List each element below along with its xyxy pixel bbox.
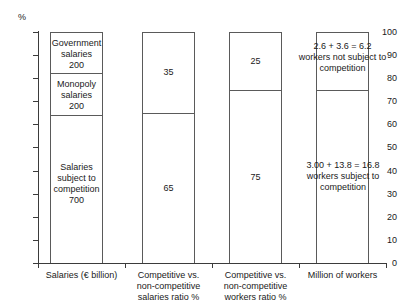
bar1-divider-monopoly [50,115,103,116]
y-tick-label-80: 80 [366,73,397,83]
cat2-line1: Competitive vs. [138,270,200,280]
cat4-line1: Million of workers [308,270,378,280]
y-tick-70 [33,101,38,102]
bar3-segment-bottom-label: 75 [229,172,282,183]
bar4-seg1-line2: workers not subject to [299,52,387,62]
bar4-seg1-value: 2.6 + 3.6 = 6.2 [313,41,371,51]
cat1-line1: Salaries (€ billion) [46,270,118,280]
cat2-line3: salaries ratio % [138,292,200,302]
y-tick-label-10: 10 [366,235,397,245]
x-tick-1 [125,263,126,268]
x-tick-2 [212,263,213,268]
x-category-label-workers-ratio: Competitive vs. non-competitive workers … [207,270,304,303]
bar4-segment-not-subject-label: 2.6 + 3.6 = 6.2 workers not subject to c… [290,41,395,74]
bar1-seg2-value: 200 [69,101,84,111]
bar1-segment-competition-label: Salaries subject to competition 700 [35,162,118,206]
cat3-line2: non-competitive [224,281,288,291]
bar1-segment-monopoly-label: Monopoly salaries 200 [40,79,113,112]
x-category-label-salaries-ratio: Competitive vs. non-competitive salaries… [120,270,217,303]
bar1-segment-government-label: Government salaries 200 [38,38,115,71]
bar1-divider-government [50,73,103,74]
x-category-label-million-workers: Million of workers [294,270,391,281]
y-tick-label-50: 50 [366,142,397,152]
y-tick-label-60: 60 [366,119,397,129]
x-tick-3 [299,263,300,268]
bar1-seg2-line1: Monopoly [57,79,96,89]
bar4-seg2-line3: competition [320,182,366,192]
bar1-seg1-value: 200 [69,60,84,70]
bar2-segment-bottom-label: 65 [142,183,195,194]
y-tick-label-0: 0 [366,258,397,268]
bar4-seg1-line3: competition [319,63,365,73]
y-tick-100 [33,32,38,33]
x-tick-end [386,263,387,268]
x-tick-start [38,263,39,268]
y-tick-50 [33,147,38,148]
bar2-segment-top-label: 35 [142,67,195,78]
bar2-divider [142,113,195,114]
cat3-line1: Competitive vs. [225,270,287,280]
x-category-label-salaries: Salaries (€ billion) [33,270,130,281]
bar1-seg3-line3: competition [53,184,99,194]
bar1-seg1-line1: Government [52,38,102,48]
bar1-seg2-line2: salaries [61,90,92,100]
y-tick-label-100: 100 [366,27,397,37]
bar3-divider [229,90,282,91]
y-tick-20 [33,217,38,218]
cat3-line3: workers ratio % [224,292,286,302]
bar1-seg1-line2: salaries [61,49,92,59]
bar3-segment-top-label: 25 [229,56,282,67]
y-tick-label-70: 70 [366,96,397,106]
bar4-seg2-value: 3.00 + 13.8 = 16.8 [306,160,379,170]
cat2-line2: non-competitive [137,281,201,291]
y-tick-60 [33,124,38,125]
y-tick-10 [33,240,38,241]
bar4-divider [316,90,369,91]
bar1-seg3-value: 700 [69,195,84,205]
bar4-segment-subject-label: 3.00 + 13.8 = 16.8 workers subject to co… [288,160,398,193]
bar1-seg3-line2: subject to [57,173,96,183]
bar4-seg2-line2: workers subject to [307,171,380,181]
bar1-seg3-line1: Salaries [60,162,93,172]
y-tick-label-20: 20 [366,212,397,222]
y-tick-80 [33,78,38,79]
